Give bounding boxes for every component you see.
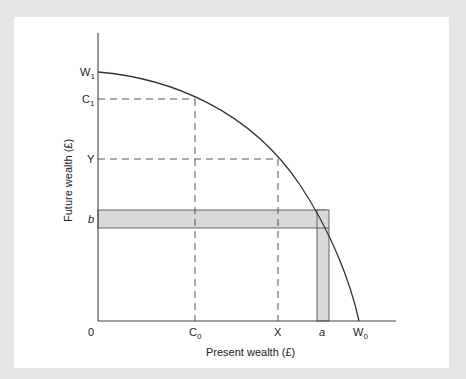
tick-y: Y: [87, 153, 95, 165]
vertical-band-a: [317, 210, 329, 321]
tick-a: a: [319, 326, 325, 338]
tick-c0: C0: [189, 326, 202, 341]
horizontal-band-b: [98, 210, 326, 228]
tick-w1: W1: [80, 66, 95, 81]
tick-x: X: [274, 326, 282, 338]
tick-w0: W0: [353, 326, 368, 341]
y-axis-title: Future wealth (£): [62, 139, 74, 222]
x-axis-title: Present wealth (£): [206, 346, 295, 358]
production-possibility-diagram: W1 C1 Y b 0 C0 X a W0 Present wealth (£)…: [0, 0, 466, 379]
tick-b: b: [88, 213, 94, 225]
origin-label: 0: [88, 326, 94, 338]
tick-c1: C1: [82, 93, 95, 108]
